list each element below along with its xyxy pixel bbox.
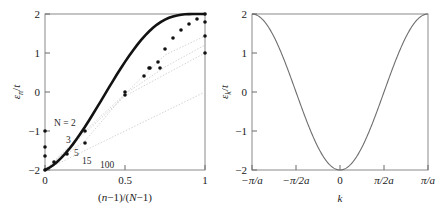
right-plot-frame — [252, 14, 428, 170]
left-anno-N100: 100 — [100, 160, 115, 170]
left-ytick-1: 1 — [35, 47, 41, 59]
right-xtick-pi-a: π/a — [421, 174, 436, 186]
left-xtick-0: 0 — [42, 174, 48, 186]
left-ytick-neg2: −2 — [28, 164, 40, 176]
left-anno-N3: 3 — [66, 135, 71, 145]
right-ylabel: εk/t — [222, 84, 233, 99]
left-ytick-neg1: −1 — [28, 125, 40, 137]
left-xlabel: (n−1)/(N−1) — [98, 191, 152, 204]
right-ytick-1: 1 — [242, 47, 248, 59]
left-anno-N15: 15 — [82, 156, 92, 166]
right-xtick-0: 0 — [337, 174, 343, 186]
left-xtick-1: 1 — [202, 174, 208, 186]
left-xtick-05: 0.5 — [118, 174, 132, 186]
right-xtick-neg-pi-a: −π/a — [241, 174, 263, 186]
right-xtick-pi-2a: π/2a — [374, 174, 394, 186]
right-panel-svg: 2 1 0 −1 −2 −π/a −π/2a 0 π/2a π/a εk/t k — [222, 0, 447, 210]
left-panel: 2 1 0 −1 −2 0 0.5 1 εn/t (n−1)/(N−1) — [0, 0, 225, 210]
left-panel-svg: 2 1 0 −1 −2 0 0.5 1 εn/t (n−1)/(N−1) — [0, 0, 225, 210]
left-anno-N2: N = 2 — [54, 118, 76, 128]
left-ytick-0: 0 — [35, 86, 41, 98]
left-ytick-2: 2 — [35, 8, 41, 20]
right-ytick-2: 2 — [242, 8, 248, 20]
right-panel: 2 1 0 −1 −2 −π/a −π/2a 0 π/2a π/a εk/t k — [222, 0, 447, 210]
left-anno-N5: 5 — [74, 148, 79, 158]
figure-two-panel-tight-binding: 2 1 0 −1 −2 0 0.5 1 εn/t (n−1)/(N−1) — [0, 0, 447, 210]
left-ylabel: εn/t — [10, 84, 25, 99]
right-xtick-neg-pi-2a: −π/2a — [283, 174, 310, 186]
right-ytick-neg1: −1 — [235, 125, 247, 137]
right-ytick-0: 0 — [242, 86, 248, 98]
svg-text:εn/t: εn/t — [10, 84, 25, 99]
svg-text:εk/t: εk/t — [222, 84, 233, 99]
right-xlabel: k — [338, 192, 344, 204]
